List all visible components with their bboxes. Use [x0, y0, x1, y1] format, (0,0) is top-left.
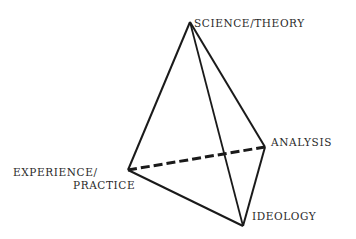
label-analysis: ANALYSIS [270, 136, 332, 148]
tetrahedron-diagram: SCIENCE/THEORY ANALYSIS EXPERIENCE/ PRAC… [0, 0, 356, 239]
label-experience: EXPERIENCE/ [13, 166, 98, 178]
label-practice: PRACTICE [73, 179, 135, 191]
edge-science-experience [128, 22, 190, 170]
label-ideology: IDEOLOGY [252, 210, 317, 222]
label-science-theory: SCIENCE/THEORY [194, 17, 305, 29]
edge-experience-ideology [128, 170, 243, 226]
edge-science-analysis [190, 22, 265, 147]
edge-experience-analysis-dashed [128, 147, 265, 170]
edge-science-ideology [190, 22, 243, 226]
